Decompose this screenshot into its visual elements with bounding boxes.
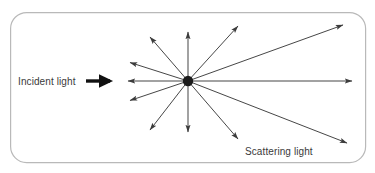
ray-upper-left-steep (150, 37, 188, 81)
scattered-ray-group (128, 25, 352, 143)
ray-lower-left-steep (150, 81, 188, 130)
ray-lower-left-shallow (130, 81, 188, 101)
ray-lower-right-long (188, 81, 347, 143)
scattering-diagram-figure: Incident light Scattering light (0, 0, 375, 173)
ray-lower-right-steep (188, 81, 238, 139)
ray-upper-right-steep (188, 26, 238, 81)
diagram-canvas: Incident light Scattering light (0, 0, 375, 173)
incident-light-label: Incident light (18, 76, 76, 87)
ray-upper-left-shallow (130, 63, 188, 82)
scattering-particle (183, 76, 193, 86)
ray-upper-right-long (188, 25, 343, 81)
scattering-light-label: Scattering light (245, 146, 313, 157)
